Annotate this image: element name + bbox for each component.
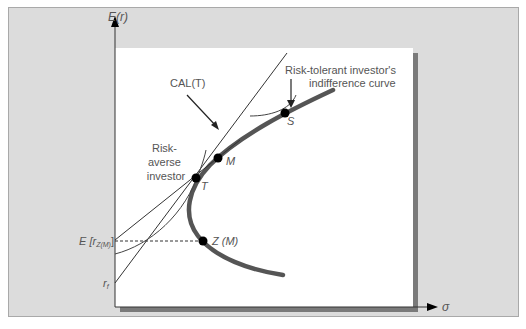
point-zm — [199, 237, 208, 246]
rf-tick-label: rf — [103, 277, 110, 290]
x-axis-label: σ — [442, 300, 450, 314]
point-m — [214, 154, 223, 163]
point-m-label: M — [226, 155, 236, 167]
y-axis-label: E(r) — [108, 10, 128, 24]
x-axis-arrow-icon — [427, 303, 438, 311]
risk-averse-label: Risk- averse investor — [147, 142, 186, 182]
point-s-label: S — [287, 115, 295, 127]
cal-label: CAL(T) — [170, 77, 205, 89]
point-zm-label: Z (M) — [211, 235, 239, 247]
point-t — [192, 174, 201, 183]
diagram-canvas: E(r) σ CAL(T) Risk- averse investor Risk… — [0, 0, 526, 329]
e-rzm-tick-label: E [rZ(M)] — [79, 235, 114, 249]
